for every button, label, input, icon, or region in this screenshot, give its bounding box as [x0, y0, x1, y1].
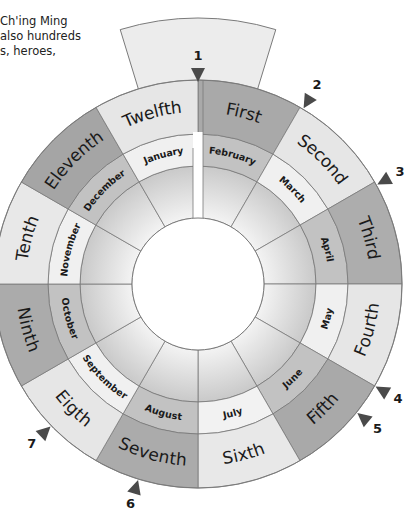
triangle-marker-icon — [127, 480, 140, 495]
marker-7: 7 — [27, 426, 50, 451]
center-circle — [132, 218, 264, 350]
marker-number: 7 — [27, 436, 36, 451]
marker-number: 5 — [373, 421, 382, 436]
triangle-marker-icon — [377, 172, 393, 185]
triangle-marker-icon — [36, 426, 51, 441]
triangle-marker-icon — [357, 413, 372, 427]
marker-3: 3 — [377, 164, 404, 185]
marker-number: 2 — [312, 77, 321, 92]
marker-5: 5 — [357, 413, 382, 436]
marker-number: 1 — [193, 48, 202, 63]
marker-number: 6 — [126, 496, 135, 511]
lunar-calendar-wheel: FebruaryMarchAprilMayJuneJulyAugustSepte… — [0, 0, 407, 523]
marker-6: 6 — [126, 480, 141, 511]
triangle-marker-icon — [376, 387, 392, 400]
triangle-marker-icon — [304, 93, 317, 109]
marker-2: 2 — [304, 77, 322, 108]
marker-number: 3 — [396, 164, 405, 179]
marker-4: 4 — [376, 387, 403, 407]
marker-number: 4 — [394, 391, 403, 406]
